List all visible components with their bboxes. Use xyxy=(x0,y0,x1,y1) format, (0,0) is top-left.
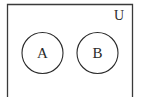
set-a-label: A xyxy=(37,45,48,61)
set-b: B xyxy=(77,33,118,74)
venn-diagram: U A B xyxy=(0,0,141,97)
universe-set: U xyxy=(8,5,133,98)
universe-label: U xyxy=(114,8,124,23)
set-a: A xyxy=(22,33,63,74)
set-b-label: B xyxy=(92,45,102,61)
